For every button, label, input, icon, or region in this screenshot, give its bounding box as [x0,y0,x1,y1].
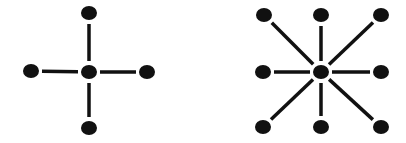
neighbor-node [256,8,272,22]
edge [329,79,373,119]
connectivity-diagram [0,0,406,143]
neighbor-node [139,65,155,79]
neighbor-node [313,120,329,134]
eight-neighbor-graph [255,8,389,134]
neighbor-node [81,121,97,135]
neighbor-node [313,8,329,22]
neighbor-node [373,65,389,79]
four-neighbor-graph [23,6,155,135]
neighbor-node [255,120,271,134]
neighbor-node [373,8,389,22]
neighbor-node [81,6,97,20]
center-node [81,65,97,79]
edge [42,71,78,72]
edge [329,23,373,65]
neighbor-node [255,65,271,79]
neighbor-node [23,64,39,78]
edge [272,23,313,64]
neighbor-node [373,120,389,134]
center-node [313,65,329,79]
edge [271,80,313,120]
